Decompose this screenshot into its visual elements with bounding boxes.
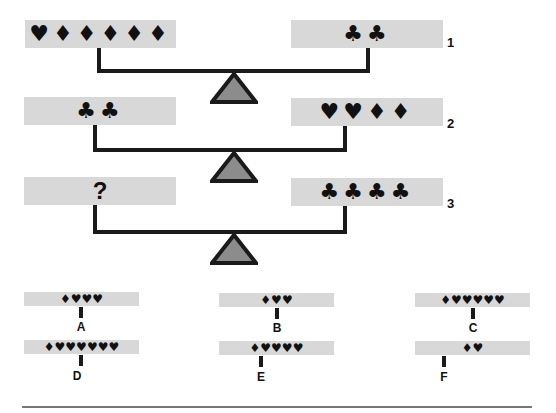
option-d-stem — [79, 355, 83, 366]
scale-1-right-symbols: ♣♣ — [343, 23, 390, 45]
scale-3-right-symbols: ♣♣♣♣ — [320, 181, 415, 203]
scale-1-number: 1 — [447, 35, 454, 50]
option-c-symbols: ♦♥♥♥♥♥ — [440, 294, 505, 306]
scale-1-right-pan: ♣♣ — [291, 20, 443, 48]
option-f-stem — [442, 356, 446, 367]
option-e-label: E — [251, 370, 271, 384]
option-b-stem — [275, 308, 279, 319]
option-e-stem — [259, 356, 263, 367]
scale-3-unknown-symbol: ? — [93, 177, 108, 205]
scale-3-right-pan: ♣♣♣♣ — [291, 178, 443, 206]
option-a-bar: ♦♥♥♥ — [24, 292, 139, 306]
scale-2-left-symbols: ♣♣ — [76, 100, 123, 122]
scale-2-left-pan: ♣♣ — [24, 97, 176, 125]
option-c-bar: ♦♥♥♥♥♥ — [415, 293, 530, 307]
option-f-symbols: ♦♥ — [462, 342, 484, 354]
scale-1-left-pan: ♥♦♦♦♦♦ — [25, 20, 176, 48]
option-a-symbols: ♦♥♥♥ — [60, 293, 103, 305]
scale-2-right-symbols: ♥♥♦♦ — [320, 101, 415, 123]
option-f-bar: ♦♥ — [415, 341, 530, 355]
option-b-label: B — [267, 321, 287, 335]
option-e-bar: ♦♥♥♥♥ — [219, 341, 334, 355]
option-c-label: C — [463, 321, 483, 335]
scale-2-fulcrum-icon — [210, 151, 258, 183]
scale-3-number: 3 — [447, 196, 454, 211]
option-d-label: D — [67, 369, 87, 383]
option-b-bar: ♦♥♥ — [219, 293, 334, 307]
scale-1-fulcrum-icon — [210, 72, 258, 104]
scale-3-left-pan: ? — [24, 177, 176, 205]
option-a-label: A — [71, 320, 91, 334]
option-f-label: F — [434, 370, 454, 384]
option-a-stem — [79, 307, 83, 318]
bottom-divider — [22, 406, 532, 408]
scale-2-number: 2 — [447, 116, 454, 131]
option-b-symbols: ♦♥♥ — [260, 294, 292, 306]
option-e-symbols: ♦♥♥♥♥ — [250, 342, 304, 354]
option-c-stem — [471, 308, 475, 319]
option-d-symbols: ♦♥♥♥♥♥♥ — [44, 341, 119, 353]
option-d-bar: ♦♥♥♥♥♥♥ — [24, 340, 139, 354]
scale-3-fulcrum-icon — [210, 233, 258, 265]
scale-1-left-symbols: ♥♦♦♦♦♦ — [29, 23, 171, 45]
scale-2-right-pan: ♥♥♦♦ — [291, 98, 443, 126]
